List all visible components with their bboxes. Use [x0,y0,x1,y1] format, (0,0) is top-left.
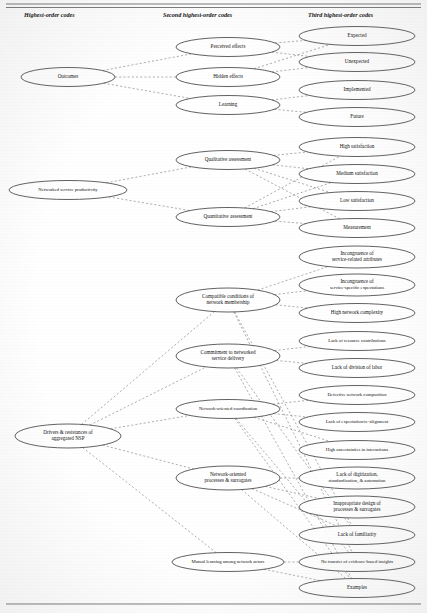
node-label-mutual-learning: Mutual learning among network actors [192,559,265,564]
node-medium-satisfaction[interactable]: Medium satisfaction [299,165,415,184]
node-lack-expectation-alignment[interactable]: Lack of expectation/re-alignment [299,413,415,432]
node-unexpected[interactable]: Unexpected [299,53,415,72]
node-network-coordination[interactable]: Network-oriented coordination [176,400,280,419]
node-label-expected: Expected [348,32,367,38]
edge-outcomes-to-perceived-effects [102,54,191,71]
code-nodes: OutcomesNetworked service productivityDr… [9,27,415,598]
node-incongruence-expectations[interactable]: Incongruence ofservice-specific expectat… [299,274,415,296]
edge-outcomes-to-learning [104,83,191,98]
node-label-high-uncertainties: High uncertainties in interactions [326,447,389,452]
node-label-learning: Learning [219,101,238,107]
node-high-satisfaction[interactable]: High satisfaction [299,138,415,157]
node-label-perceived-effects: Perceived effects [211,43,246,49]
edge-compatible-conditions-to-incongruence-expectations [274,291,307,295]
edge-drivers-to-network-processes [103,445,194,469]
node-label-hidden-effects: Hidden effects [213,73,243,79]
node-expected[interactable]: Expected [299,27,415,46]
edge-nsp-to-quantitative-assessment [109,197,190,211]
column-header-col2: Second highest-order codes [163,12,233,18]
edge-network-processes-to-inappropriate-design [265,486,319,498]
edge-commitment-to-lack-resource-contributions [274,347,309,351]
node-label-inappropriate-design: processes & surrogates [334,506,381,512]
node-label-network-coordination: Network-oriented coordination [199,406,258,411]
node-label-no-transfer-insights: No transfer of evidence-based insights [321,559,393,564]
edge-network-coordination-to-defective-network-composition [273,400,309,404]
node-label-incongruence-attributes: service-related attributes [332,256,382,262]
edge-perceived-effects-to-expected [275,40,305,43]
node-nsp[interactable]: Networked service productivity [9,181,127,200]
node-label-lack-digitization: Lack of digitization, [336,471,377,477]
node-qualitative-assessment[interactable]: Qualitative assessment [176,151,280,170]
node-outcomes[interactable]: Outcomes [21,68,115,87]
node-label-incongruence-expectations: service-specific expectations [330,285,384,290]
coding-structure-diagram: OutcomesNetworked service productivityDr… [0,0,427,613]
node-future[interactable]: Future [299,108,415,127]
node-commitment[interactable]: Commitment to networkedservice delivery [176,344,280,368]
node-high-uncertainties[interactable]: High uncertainties in interactions [299,441,415,460]
node-incongruence-attributes[interactable]: Incongruence ofservice-related attribute… [299,246,415,268]
node-label-defective-network-composition: Defective network composition [327,392,387,397]
edge-drivers-to-network-coordination [111,415,190,428]
node-perceived-effects[interactable]: Perceived effects [176,38,280,57]
node-label-compatible-conditions: network membership [206,299,250,305]
edge-learning-to-implemented [272,96,310,100]
node-label-nsp: Networked service productivity [38,187,98,192]
node-label-high-network-complexity: High network complexity [331,309,384,315]
node-label-quantitative-assessment: Quantitative assessment [203,213,253,219]
node-label-high-satisfaction: High satisfaction [340,143,375,149]
node-label-network-processes: processes & surrogates [205,477,252,483]
edge-drivers-to-commitment [90,367,206,425]
edge-commitment-to-lack-division-labor [276,360,306,363]
node-label-outcomes: Outcomes [58,73,79,79]
edge-drivers-to-mutual-learning [83,448,217,553]
node-quantitative-assessment[interactable]: Quantitative assessment [176,208,280,227]
node-high-network-complexity[interactable]: High network complexity [299,304,415,323]
node-mutual-learning[interactable]: Mutual learning among network actors [172,553,284,572]
node-low-satisfaction[interactable]: Low satisfaction [299,192,415,211]
edge-hidden-effects-to-unexpected [272,68,310,72]
node-compatible-conditions[interactable]: Compatible conditions ofnetwork membersh… [176,288,280,312]
edge-perceived-effects-to-unexpected [272,52,310,56]
edge-qualitative-assessment-to-high-satisfaction [274,152,308,155]
node-label-lack-resource-contributions: Lack of resource contributions [328,338,386,343]
node-label-future: Future [350,113,364,119]
node-label-incongruence-expectations: Incongruence of [340,278,374,284]
node-label-lack-expectation-alignment: Lack of expectation/re-alignment [326,419,389,424]
node-learning[interactable]: Learning [176,96,280,115]
edge-nsp-to-qualitative-assessment [106,167,191,183]
node-label-unexpected: Unexpected [345,58,370,64]
edge-quantitative-assessment-to-measurement [275,221,305,224]
node-label-drivers: aggregated NSP [52,435,85,441]
column-header-col3: Third highest-order codes [308,12,374,18]
edge-quantitative-assessment-to-low-satisfaction [271,207,311,212]
edge-network-coordination-to-lack-expectation-alignment [274,414,308,417]
node-drivers[interactable]: Drivers & resistances ofaggregated NSP [15,424,121,448]
node-label-lack-familiarity: Lack of familiarity [338,531,377,537]
node-defective-network-composition[interactable]: Defective network composition [299,386,415,405]
column-header-col1: Highest-order codes [23,12,75,18]
node-no-transfer-insights[interactable]: No transfer of evidence-based insights [299,553,415,572]
node-lack-familiarity[interactable]: Lack of familiarity [299,526,415,545]
edge-learning-to-future [274,109,306,112]
node-lack-division-labor[interactable]: Lack of division of labor [299,359,415,378]
node-label-examples: Examples [347,584,367,590]
node-label-medium-satisfaction: Medium satisfaction [336,170,378,176]
edge-compatible-conditions-to-high-network-complexity [276,305,308,308]
node-lack-digitization[interactable]: Lack of digitization,standardization, & … [299,467,415,489]
figure-canvas: OutcomesNetworked service productivityDr… [0,0,427,613]
node-implemented[interactable]: Implemented [299,81,415,100]
edge-mutual-learning-to-examples [264,569,320,580]
node-label-qualitative-assessment: Qualitative assessment [205,156,252,162]
edge-qualitative-assessment-to-medium-satisfaction [273,165,309,169]
node-network-processes[interactable]: Network-orientedprocesses & surrogates [176,466,280,490]
node-lack-resource-contributions[interactable]: Lack of resource contributions [299,332,415,351]
node-measurement[interactable]: Measurement [299,219,415,238]
node-examples[interactable]: Examples [299,579,415,598]
node-label-commitment: service delivery [212,355,245,361]
node-hidden-effects[interactable]: Hidden effects [176,68,280,87]
node-label-low-satisfaction: Low satisfaction [340,197,374,203]
column-headers: Highest-order codesSecond highest-order … [23,12,374,18]
node-label-lack-division-labor: Lack of division of labor [332,364,383,370]
node-label-implemented: Implemented [344,86,371,92]
node-inappropriate-design[interactable]: Inappropriate design ofprocesses & surro… [299,496,415,518]
